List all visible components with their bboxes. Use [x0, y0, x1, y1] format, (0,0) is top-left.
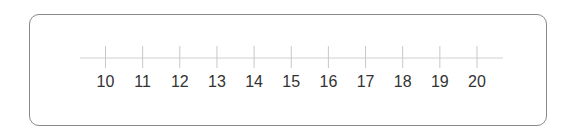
tick-label: 13 [208, 73, 226, 90]
number-line: 1011121314151617181920 [0, 0, 581, 135]
tick-label: 10 [97, 73, 115, 90]
tick-label: 19 [431, 73, 449, 90]
tick-label: 16 [320, 73, 338, 90]
tick-label: 15 [282, 73, 300, 90]
tick-label: 12 [171, 73, 189, 90]
tick-group: 1011121314151617181920 [97, 46, 486, 90]
tick-label: 17 [357, 73, 375, 90]
tick-label: 18 [394, 73, 412, 90]
tick-label: 11 [134, 73, 151, 90]
tick-label: 14 [245, 73, 263, 90]
tick-label: 20 [468, 73, 486, 90]
